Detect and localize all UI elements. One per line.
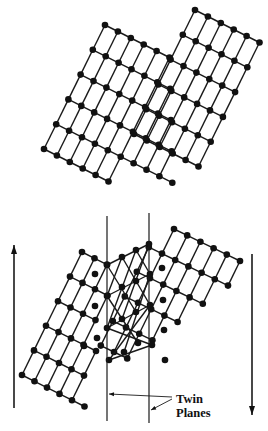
atom	[186, 294, 193, 301]
bond	[57, 131, 69, 156]
atom	[67, 304, 74, 311]
bond	[70, 252, 82, 277]
atom	[79, 280, 86, 287]
bond	[211, 117, 223, 142]
atom	[155, 81, 162, 88]
atom	[237, 258, 244, 265]
atom	[31, 347, 38, 354]
twin-planes-label: Twin Planes	[176, 392, 211, 420]
atom	[160, 281, 167, 288]
bond	[147, 145, 159, 170]
atom	[80, 311, 87, 318]
bond	[108, 125, 120, 150]
atom	[133, 309, 140, 316]
bond	[56, 99, 68, 124]
atom	[140, 41, 147, 48]
leader-arrowhead-icon	[109, 392, 114, 396]
bond	[234, 36, 246, 61]
atom	[147, 302, 154, 309]
bond	[35, 357, 47, 382]
atom	[129, 97, 136, 104]
bond	[59, 308, 71, 333]
atom	[181, 94, 188, 101]
bond	[83, 144, 95, 169]
atom	[167, 56, 174, 63]
bond	[134, 138, 146, 163]
bond	[171, 35, 183, 60]
atom	[169, 119, 176, 126]
atom	[92, 172, 99, 179]
atom	[195, 132, 202, 139]
bond	[209, 23, 221, 48]
bond	[176, 266, 188, 291]
label-line-1: Twin	[176, 392, 211, 406]
atom	[67, 273, 74, 280]
atom	[169, 179, 176, 186]
atom	[159, 250, 166, 257]
bond	[183, 10, 195, 35]
atom	[133, 247, 140, 254]
atom	[192, 7, 199, 14]
bond	[93, 25, 105, 50]
atom	[98, 342, 105, 349]
bond	[109, 305, 150, 360]
atom	[147, 271, 154, 278]
bond	[158, 89, 170, 114]
atom	[143, 166, 150, 173]
bond	[222, 30, 234, 55]
bond	[163, 260, 175, 285]
atom	[103, 84, 110, 91]
atom	[220, 114, 227, 121]
atom	[185, 263, 192, 270]
bond	[95, 119, 107, 144]
atom	[92, 317, 99, 324]
atom	[65, 96, 72, 103]
atom	[200, 301, 207, 308]
atom	[102, 53, 109, 60]
leader-line	[109, 394, 172, 397]
bond	[162, 229, 174, 254]
label-leader-lines	[109, 392, 172, 410]
atom	[143, 106, 150, 113]
bond	[159, 151, 171, 176]
atom	[102, 22, 109, 29]
atom	[117, 122, 124, 129]
bond	[215, 255, 227, 280]
bond	[145, 82, 157, 107]
atom	[54, 152, 61, 159]
atom	[92, 140, 99, 147]
arrowhead-icon	[11, 245, 17, 254]
bond	[178, 297, 190, 322]
bond	[107, 94, 119, 119]
atom	[219, 82, 226, 89]
bond	[159, 91, 171, 116]
bond	[184, 41, 196, 66]
atom	[194, 101, 201, 108]
atom	[56, 360, 63, 367]
atom	[206, 76, 213, 83]
bond	[22, 350, 34, 375]
bond	[119, 38, 131, 63]
atom	[19, 372, 26, 379]
atom	[135, 340, 142, 347]
atom	[77, 71, 84, 78]
atom	[157, 144, 164, 151]
atom	[198, 270, 205, 277]
atom	[92, 303, 99, 310]
atom	[197, 239, 204, 246]
bond	[202, 248, 214, 273]
bond	[95, 265, 107, 290]
bond	[46, 301, 58, 326]
atom	[156, 112, 163, 119]
bond	[70, 137, 82, 162]
atom	[43, 353, 50, 360]
bond	[160, 122, 172, 147]
atom	[205, 13, 212, 20]
bond	[34, 326, 46, 351]
atom	[244, 64, 251, 71]
atom	[180, 32, 187, 39]
atom	[92, 286, 99, 293]
atom	[149, 342, 156, 349]
atom	[210, 245, 217, 252]
bond	[209, 54, 221, 79]
